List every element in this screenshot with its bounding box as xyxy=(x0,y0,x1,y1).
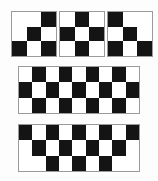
cell-r3-c5 xyxy=(72,98,85,113)
cell-r3-c2 xyxy=(75,41,90,56)
cell-r1-c8 xyxy=(112,67,125,82)
cell-r1-c6 xyxy=(86,125,99,140)
cell-r2-c6 xyxy=(86,82,99,97)
cell-r2-c3 xyxy=(41,27,56,42)
cell-r3-c9 xyxy=(126,98,139,113)
cell-r1-c2 xyxy=(123,12,138,27)
cell-r2-c4 xyxy=(59,82,72,97)
cell-r1-c1 xyxy=(60,12,75,27)
cell-r3-c3 xyxy=(46,156,59,171)
cell-r3-c3 xyxy=(89,41,104,56)
cell-r3-c8 xyxy=(112,156,125,171)
cell-r2-c3 xyxy=(46,82,59,97)
cell-r2-c2 xyxy=(123,27,138,42)
cell-r2-c2 xyxy=(27,27,42,42)
cell-r3-c1 xyxy=(60,41,75,56)
cell-r2-c9 xyxy=(126,82,139,97)
cell-r3-c4 xyxy=(59,156,72,171)
cell-r3-c3 xyxy=(41,41,56,56)
cell-r3-c3 xyxy=(137,41,152,56)
cell-r3-c7 xyxy=(99,156,112,171)
checkerboard-figure xyxy=(0,0,158,181)
cell-r1-c8 xyxy=(112,125,125,140)
cell-r3-c7 xyxy=(99,98,112,113)
cell-r3-c9 xyxy=(126,156,139,171)
cell-r2-c4 xyxy=(59,140,72,155)
cell-r1-c2 xyxy=(32,67,45,82)
wide-board-middle xyxy=(18,66,140,114)
cell-r1-c7 xyxy=(99,125,112,140)
cell-r2-c3 xyxy=(137,27,152,42)
cell-r1-c5 xyxy=(72,67,85,82)
cell-r1-c2 xyxy=(75,12,90,27)
cell-r3-c3 xyxy=(46,98,59,113)
cell-r3-c6 xyxy=(86,156,99,171)
cell-r1-c3 xyxy=(46,125,59,140)
cell-r1-c2 xyxy=(27,12,42,27)
cell-r1-c1 xyxy=(108,12,123,27)
cell-r2-c8 xyxy=(112,82,125,97)
cell-r1-c1 xyxy=(19,67,32,82)
cell-r2-c1 xyxy=(108,27,123,42)
cell-r1-c1 xyxy=(12,12,27,27)
cell-r3-c8 xyxy=(112,98,125,113)
cell-r2-c2 xyxy=(32,140,45,155)
cell-r2-c1 xyxy=(19,140,32,155)
cell-r2-c8 xyxy=(112,140,125,155)
cell-r3-c2 xyxy=(32,98,45,113)
cell-r2-c6 xyxy=(86,140,99,155)
small-board-right xyxy=(107,11,153,57)
cell-r1-c1 xyxy=(19,125,32,140)
cell-r2-c5 xyxy=(72,82,85,97)
cell-r3-c1 xyxy=(19,156,32,171)
cell-r2-c7 xyxy=(99,140,112,155)
cell-r2-c3 xyxy=(89,27,104,42)
cell-r1-c7 xyxy=(99,67,112,82)
cell-r1-c9 xyxy=(126,67,139,82)
cell-r2-c2 xyxy=(75,27,90,42)
cell-r2-c3 xyxy=(46,140,59,155)
cell-r1-c3 xyxy=(137,12,152,27)
cell-r1-c3 xyxy=(46,67,59,82)
cell-r3-c1 xyxy=(108,41,123,56)
cell-r3-c2 xyxy=(123,41,138,56)
cell-r1-c3 xyxy=(89,12,104,27)
cell-r3-c5 xyxy=(72,156,85,171)
cell-r1-c5 xyxy=(72,125,85,140)
cell-r2-c9 xyxy=(126,140,139,155)
cell-r1-c2 xyxy=(32,125,45,140)
cell-r2-c2 xyxy=(32,82,45,97)
cell-r2-c1 xyxy=(12,27,27,42)
cell-r2-c5 xyxy=(72,140,85,155)
cell-r1-c9 xyxy=(126,125,139,140)
cell-r2-c1 xyxy=(60,27,75,42)
cell-r1-c6 xyxy=(86,67,99,82)
cell-r1-c4 xyxy=(59,67,72,82)
cell-r3-c2 xyxy=(32,156,45,171)
cell-r3-c2 xyxy=(27,41,42,56)
small-board-center xyxy=(59,11,105,57)
cell-r2-c7 xyxy=(99,82,112,97)
cell-r1-c4 xyxy=(59,125,72,140)
cell-r3-c4 xyxy=(59,98,72,113)
cell-r3-c6 xyxy=(86,98,99,113)
wide-board-bottom xyxy=(18,124,140,172)
cell-r3-c1 xyxy=(19,98,32,113)
cell-r2-c1 xyxy=(19,82,32,97)
cell-r3-c1 xyxy=(12,41,27,56)
small-board-left xyxy=(11,11,57,57)
cell-r1-c3 xyxy=(41,12,56,27)
